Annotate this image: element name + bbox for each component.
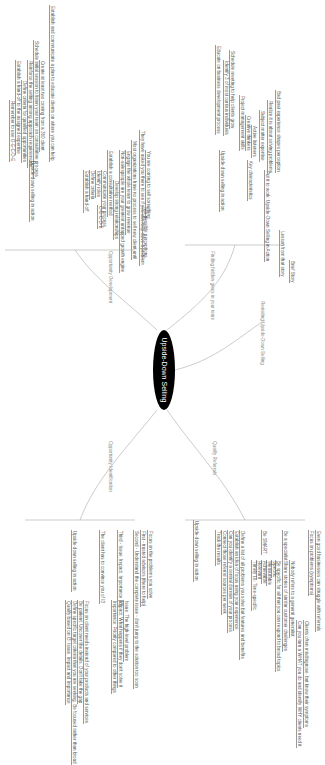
node[interactable]: Even good businesses can struggle with r… bbox=[315, 530, 321, 632]
branch-qualify[interactable]: Qualify Referrals bbox=[212, 440, 217, 476]
node[interactable]: Focus on the problems you solve bbox=[147, 530, 153, 599]
node[interactable]: Establish a hand-off to the assigned exp… bbox=[15, 60, 21, 155]
node[interactable]: Can you turn a WHAT you do and identify … bbox=[296, 620, 302, 748]
node[interactable]: Define criteria for qualified opportunit… bbox=[21, 80, 27, 163]
node[interactable]: Develop strong relationships bbox=[113, 180, 119, 240]
node[interactable]: Upside-down selling in action bbox=[219, 150, 225, 212]
node[interactable]: Timely i.e. Time-specific bbox=[251, 560, 257, 611]
node[interactable]: Define specific target criteria that you… bbox=[71, 600, 77, 765]
node[interactable]: Schedule meeting to help clients grow bbox=[229, 50, 235, 129]
node[interactable]: Define a list of all problems you solve … bbox=[239, 530, 245, 660]
node[interactable]: Establish a consultative method bbox=[107, 150, 113, 217]
node[interactable]: Can you identify a central domain of you… bbox=[227, 530, 233, 633]
node[interactable]: Lesson from that story bbox=[279, 230, 285, 277]
node[interactable]: Track the results bbox=[215, 530, 221, 566]
node[interactable]: Two possible perceptions bbox=[142, 205, 148, 259]
branch-opportunity-development[interactable]: Opportunity Development bbox=[108, 250, 113, 304]
node[interactable]: Share stories of similar customer challe… bbox=[282, 560, 288, 652]
node[interactable]: O-E-C-D-E bbox=[97, 205, 103, 229]
node[interactable]: Establish a hand-off bbox=[83, 170, 89, 213]
node[interactable]: Second - Understand the complete issue -… bbox=[133, 530, 139, 689]
node[interactable]: Establish and communicate a plan to educ… bbox=[49, 5, 55, 162]
branch-finding-hidden[interactable]: Finding hidden gems in your team bbox=[210, 250, 215, 321]
node[interactable]: Schedule initial session to listen your … bbox=[33, 40, 39, 178]
node[interactable]: Most organizations have no process to se… bbox=[131, 140, 137, 260]
node[interactable]: Reinforce the setting among approach req… bbox=[27, 60, 33, 168]
node[interactable]: First - trusted advisors (there to help) bbox=[140, 530, 146, 607]
node[interactable]: Qualify based on I3: Issue, Impact and I… bbox=[65, 600, 71, 705]
node[interactable]: Impact: What happens if they don't solve… bbox=[117, 600, 123, 688]
node[interactable]: Realize it is about solving problems bbox=[267, 100, 273, 174]
node[interactable]: Put it to work: Upside-Down Selling in A… bbox=[264, 170, 270, 262]
node[interactable]: Bad past experience shapes perception bbox=[275, 90, 281, 173]
node[interactable]: Project management skills bbox=[239, 95, 245, 151]
node[interactable]: Upside-down selling in action bbox=[29, 160, 35, 222]
node[interactable]: Active listeners bbox=[251, 125, 257, 158]
node[interactable]: Create at least two coming from a 360 cl… bbox=[39, 60, 45, 152]
node[interactable]: Creative thinkers bbox=[245, 115, 251, 151]
node[interactable]: Key characteristics bbox=[247, 160, 253, 201]
central-topic[interactable]: Upside-Down Selling bbox=[153, 330, 175, 410]
node[interactable]: Establish an idea of focus using your ex… bbox=[233, 530, 239, 631]
node[interactable]: Importance: Priority compared to other t… bbox=[111, 600, 117, 694]
node[interactable]: Identify roles bbox=[95, 170, 101, 198]
node[interactable]: Upside-down selling in action bbox=[193, 520, 199, 582]
node[interactable]: Educate on business development process bbox=[215, 45, 221, 135]
node[interactable]: Connect those referral sources per week bbox=[221, 530, 227, 615]
node[interactable]: Nobody refers to a general generalist bbox=[289, 560, 295, 638]
node[interactable]: Identify 3 of most curious individuals bbox=[223, 60, 229, 136]
node[interactable]: Upside-down selling in action bbox=[71, 530, 77, 592]
branch-revisiting[interactable]: Revisiting Upside-Down Selling bbox=[260, 300, 265, 366]
node[interactable]: Be patient: Uncover the details. Don't t… bbox=[77, 600, 83, 704]
node[interactable]: Third - Issue, Impact, Importance (I3) bbox=[117, 530, 123, 608]
node[interactable]: Engage the whole team to grow revenue bbox=[125, 150, 131, 235]
node[interactable]: Remember to use O-E-C-D-E bbox=[9, 100, 15, 162]
node[interactable]: Focus on client needs instead of your pr… bbox=[83, 600, 89, 724]
node[interactable]: Be a specialist bbox=[282, 530, 288, 562]
node[interactable]: Clients often misdiagnose, but know thei… bbox=[303, 620, 309, 728]
node[interactable]: Subject matter expertise bbox=[259, 110, 265, 162]
node[interactable]: Define criteria bbox=[89, 170, 95, 200]
node[interactable]: Non-salespeople are your greatest untapp… bbox=[119, 150, 125, 273]
branch-opportunity-identification[interactable]: Opportunity Identification bbox=[108, 440, 113, 493]
node[interactable]: Brief Story bbox=[289, 260, 295, 283]
node[interactable]: Focus on problems (symptoms) bbox=[308, 530, 314, 596]
node[interactable]: Issue: The high-level problem bbox=[123, 600, 129, 662]
node[interactable]: The client has to convince you of I3 bbox=[99, 530, 105, 604]
node[interactable]: Be SMART bbox=[261, 530, 267, 555]
